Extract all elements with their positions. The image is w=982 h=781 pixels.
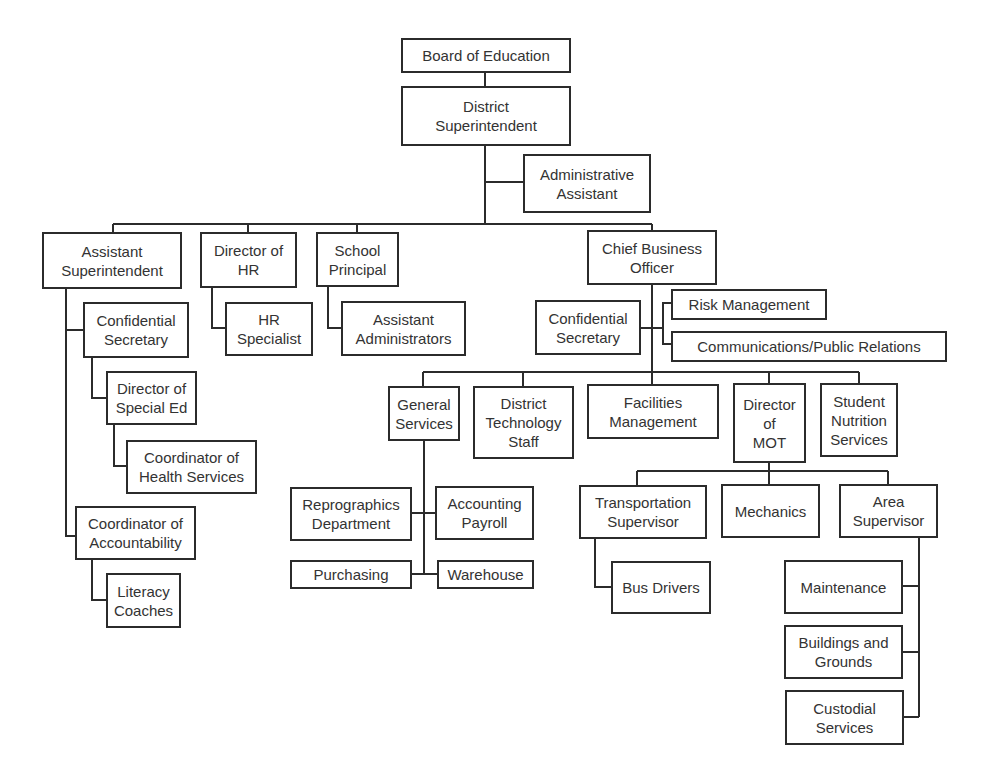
node-school-principal: School Principal [316,232,399,287]
node-bus-drivers: Bus Drivers [611,561,711,614]
node-mechanics: Mechanics [721,484,820,538]
node-board-of-education: Board of Education [401,38,571,73]
node-accounting-payroll: Accounting Payroll [435,486,534,540]
node-area-supervisor: Area Supervisor [839,484,938,538]
node-communications-public-relations: Communications/Public Relations [671,331,947,362]
node-confidential-secretary-cbo: Confidential Secretary [535,300,641,355]
node-reprographics-department: Reprographics Department [290,487,412,541]
node-maintenance: Maintenance [784,560,903,614]
node-risk-management: Risk Management [671,289,827,320]
node-facilities-management: Facilities Management [587,384,719,439]
node-transportation-supervisor: Transportation Supervisor [579,485,707,539]
node-literacy-coaches: Literacy Coaches [106,573,181,628]
node-director-special-ed: Director of Special Ed [106,371,197,425]
node-director-of-hr: Director of HR [200,232,297,288]
node-student-nutrition-services: Student Nutrition Services [820,383,898,457]
node-custodial-services: Custodial Services [785,690,904,745]
node-buildings-and-grounds: Buildings and Grounds [784,625,903,679]
node-warehouse: Warehouse [437,560,534,589]
node-coordinator-health-services: Coordinator of Health Services [126,440,257,494]
node-assistant-administrators: Assistant Administrators [341,301,466,356]
node-chief-business-officer: Chief Business Officer [587,230,717,285]
node-director-of-mot: Director of MOT [733,383,806,463]
node-assistant-superintendent: Assistant Superintendent [42,232,182,289]
node-district-superintendent: District Superintendent [401,86,571,146]
node-purchasing: Purchasing [290,560,412,589]
node-confidential-secretary-as: Confidential Secretary [83,302,189,358]
node-administrative-assistant: Administrative Assistant [523,154,651,213]
node-general-services: General Services [388,386,460,441]
node-district-technology-staff: District Technology Staff [473,386,574,459]
org-chart: Board of Education District Superintende… [0,0,982,781]
node-coordinator-accountability: Coordinator of Accountability [75,506,196,560]
node-hr-specialist: HR Specialist [225,302,313,356]
